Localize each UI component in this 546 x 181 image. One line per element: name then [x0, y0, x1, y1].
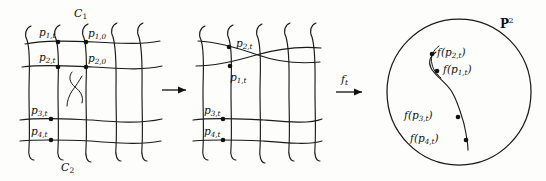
curve-label-c2: C2	[61, 162, 74, 173]
panel-projective-plane	[387, 19, 531, 165]
image-point-label-fp4t: f(p4,t)	[410, 133, 439, 144]
image-node-fp3t	[456, 115, 461, 120]
point-label-p2t: p2,t	[39, 52, 55, 63]
image-node-fp1t	[435, 69, 440, 74]
figure-svg	[0, 0, 546, 181]
source-node-p20	[84, 65, 89, 70]
source-hcurve-3	[20, 118, 162, 122]
deformed-node-p4t	[221, 138, 226, 143]
panel-deformed-grid	[193, 23, 322, 163]
arrow-2-group	[336, 89, 362, 96]
deformed-vcurve-3	[257, 24, 265, 163]
deformed-hcurve-4	[193, 140, 322, 143]
point-label-p10: p1,0	[88, 28, 106, 39]
source-fold-cusp	[70, 72, 83, 103]
point-label-p3t: p3,t	[31, 105, 47, 116]
image-node-fp4t	[464, 138, 469, 143]
deformed-point-label-p4t: p4,t	[204, 126, 220, 137]
deformed-point-label-p1t: p1,t	[230, 72, 246, 83]
deformed-point-label-p3t: p3,t	[204, 105, 220, 116]
deformed-vcurve-4	[285, 23, 294, 161]
image-node-fp2t	[430, 52, 435, 57]
deformed-vcurve-5	[311, 23, 320, 161]
source-hcurve-4	[20, 140, 161, 143]
panel-source-grid	[20, 23, 162, 162]
deformed-node-p3t	[221, 117, 226, 122]
curve-label-c1: C1	[74, 8, 87, 19]
arrow-2-head	[354, 89, 362, 96]
image-point-label-fp1t: f(p1,t)	[443, 64, 472, 75]
arrow-1-group	[162, 87, 186, 94]
map-label-ft: ft	[341, 74, 348, 85]
projective-plane-boundary	[387, 19, 531, 165]
deformed-point-label-p2t: p2,t	[236, 38, 252, 49]
deformed-node-p1t	[228, 64, 233, 69]
source-node-p10	[84, 40, 89, 45]
point-label-p4t: p4,t	[31, 126, 47, 137]
deformed-node-p2t	[227, 45, 232, 50]
projective-plane-label: P2	[500, 18, 514, 30]
figure-container: C1 C2 p1,t p1,0 p2,t p2,0 p3,t p4,t p2,t…	[0, 0, 546, 181]
deformed-hcurve-3	[193, 118, 322, 122]
image-point-label-fp2t: f(p2,t)	[437, 47, 466, 58]
image-point-label-fp3t: f(p3,t)	[404, 110, 433, 121]
source-node-p1t	[56, 40, 61, 45]
arrow-1-head	[178, 87, 186, 94]
point-label-p1t: p1,t	[39, 27, 55, 38]
source-node-p3t	[49, 117, 54, 122]
source-hcurve-2	[22, 65, 162, 68]
point-label-p20: p2,0	[88, 53, 106, 64]
source-vcurve-4	[112, 23, 121, 161]
source-node-p4t	[49, 138, 54, 143]
source-node-p2t	[56, 65, 61, 70]
